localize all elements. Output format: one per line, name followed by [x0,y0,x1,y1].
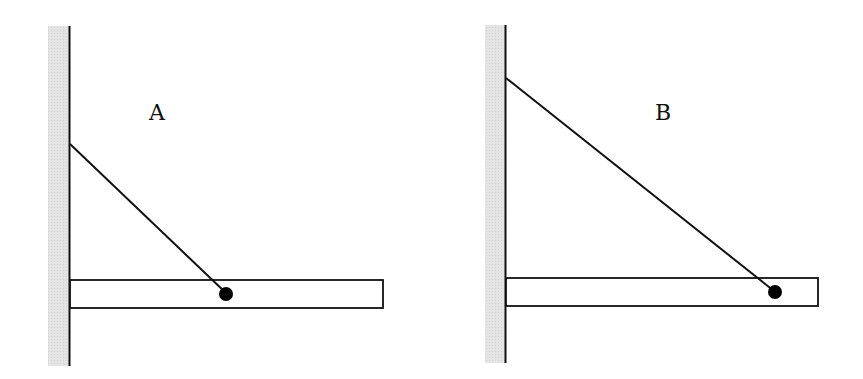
wall-a [48,26,69,366]
anchor-dot-b [768,285,782,299]
panel-a: A [48,26,383,366]
wire-b [506,78,774,291]
wall-b [485,25,505,363]
wire-a [70,144,226,293]
anchor-dot-a [219,287,233,301]
panel-b: B [485,25,818,363]
panel-label-a: A [148,100,166,125]
diagram-canvas: A B [0,0,863,379]
panel-label-b: B [655,100,671,125]
